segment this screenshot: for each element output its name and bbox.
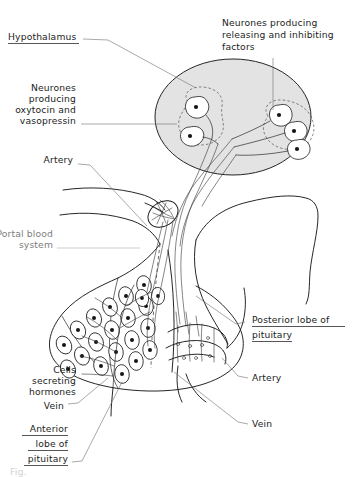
svg-text:secreting: secreting (32, 375, 76, 386)
svg-text:Portal blood: Portal blood (0, 228, 53, 239)
pons-inner-edge (194, 240, 228, 344)
pons-outline (196, 196, 318, 304)
svg-text:releasing and inhibiting: releasing and inhibiting (222, 29, 334, 40)
brain-contour-upper (63, 188, 165, 210)
label-vein-right: Vein (252, 418, 272, 429)
leader-artery-left (78, 164, 147, 226)
svg-text:factors: factors (222, 41, 255, 52)
label-hypothalamus: Hypothalamus (8, 31, 79, 44)
portal-plexus-capsule (143, 195, 183, 232)
label-releasing-factors: Neurones producing releasing and inhibit… (222, 17, 334, 52)
label-anterior-lobe: Anterior lobe of pituitary (22, 423, 69, 466)
brain-contour-lower (60, 213, 160, 244)
secretory-cell (128, 351, 144, 371)
svg-text:Neurones: Neurones (31, 82, 76, 93)
posterior-vessels-trunks (177, 288, 245, 402)
label-portal-blood-system: Portal blood system (0, 228, 53, 250)
svg-text:Vein: Vein (44, 400, 64, 411)
pituitary-gland (49, 244, 243, 391)
posterior-vein-trunk-lower (177, 366, 182, 402)
label-cells-secreting-hormones: Cells secreting hormones (29, 364, 76, 397)
lobe-boundary (168, 250, 174, 372)
svg-text:hormones: hormones (29, 386, 76, 397)
secretory-cell (124, 330, 141, 351)
svg-text:vasopressin: vasopressin (20, 115, 76, 126)
svg-text:Artery: Artery (44, 154, 74, 165)
secretory-cell (67, 318, 88, 341)
label-oxytocin-vasopressin: Neurones producing oxytocin and vasopres… (15, 82, 76, 126)
label-posterior-lobe: Posterior lobe of pituitary (252, 314, 345, 342)
posterior-lobe-capillaries (166, 312, 227, 364)
svg-text:Vein: Vein (252, 418, 272, 429)
secretory-cell (86, 331, 106, 353)
leader-anterior-lobe (72, 382, 122, 462)
svg-text:system: system (19, 239, 53, 250)
svg-text:Anterior: Anterior (30, 423, 68, 434)
leader-vein-right (174, 372, 248, 424)
anatomy-diagram: Hypothalamus Neurones producing releasin… (0, 0, 352, 477)
figure-page: Hypothalamus Neurones producing releasin… (0, 0, 352, 477)
svg-text:Fig.: Fig. (10, 466, 26, 477)
svg-text:Posterior lobe of: Posterior lobe of (252, 314, 330, 325)
secretory-cell (100, 296, 120, 318)
secretory-cell (103, 319, 122, 341)
svg-text:Artery: Artery (252, 372, 282, 383)
svg-text:oxytocin and: oxytocin and (15, 104, 76, 115)
figure-caption: Fig. (10, 466, 26, 477)
svg-text:lobe of: lobe of (36, 438, 69, 449)
label-artery-right: Artery (252, 372, 282, 383)
median-eminence-plexus (143, 195, 183, 232)
svg-text:Cells: Cells (53, 364, 76, 375)
secretory-cell (53, 333, 75, 356)
svg-text:Neurones producing: Neurones producing (222, 17, 317, 28)
label-hypothalamus-text: Hypothalamus (8, 31, 76, 42)
secretory-cell (92, 355, 111, 377)
svg-text:pituitary: pituitary (28, 453, 69, 464)
secretory-cell (142, 340, 158, 360)
svg-text:pituitary: pituitary (252, 329, 293, 340)
label-vein-left: Vein (44, 400, 64, 411)
label-artery-left: Artery (44, 154, 74, 165)
svg-text:producing: producing (29, 93, 76, 104)
brain-base-contours (60, 188, 165, 278)
secretory-cell (114, 364, 131, 385)
